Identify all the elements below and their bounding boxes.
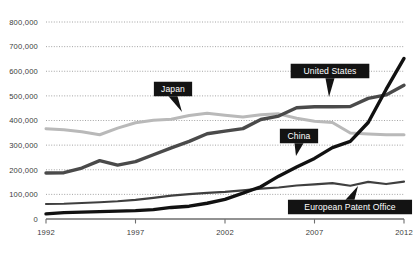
y-axis-tick-label: 200,000 <box>9 166 38 175</box>
x-axis-tick-label: 2002 <box>216 228 234 237</box>
callout-pointer <box>326 78 335 97</box>
callout-label: Japan <box>161 84 185 94</box>
series-line-united-states <box>46 85 404 173</box>
y-axis-tick-labels: 0100,000200,000300,000400,000500,000600,… <box>9 18 38 224</box>
callout-pointer <box>295 143 304 156</box>
y-axis-tick-label: 300,000 <box>9 141 38 150</box>
x-axis-tick-label: 2012 <box>395 228 413 237</box>
y-axis-tick-label: 600,000 <box>9 67 38 76</box>
y-axis-tick-label: 800,000 <box>9 18 38 27</box>
y-axis-tick-label: 700,000 <box>9 42 38 51</box>
callout-pointer <box>169 96 183 112</box>
y-axis-tick-label: 0 <box>34 215 38 224</box>
gridlines <box>46 22 404 194</box>
x-axis-tick-label: 1997 <box>127 228 145 237</box>
callout-european-patent-office[interactable]: European Patent Office <box>288 186 412 214</box>
x-axis-tick-labels: 19921997200220072012 <box>37 228 413 237</box>
patent-applications-line-chart: 0100,000200,000300,000400,000500,000600,… <box>0 0 414 258</box>
chart-canvas: 0100,000200,000300,000400,000500,000600,… <box>0 0 414 258</box>
callout-japan[interactable]: Japan <box>154 82 192 112</box>
callout-label: European Patent Office <box>304 202 396 212</box>
x-axis-tick-label: 2007 <box>306 228 324 237</box>
callout-united-states[interactable]: United States <box>291 64 370 97</box>
x-axis-tick-label: 1992 <box>37 228 55 237</box>
y-axis-tick-label: 400,000 <box>9 116 38 125</box>
y-axis-tick-label: 100,000 <box>9 190 38 199</box>
callout-label: China <box>288 131 311 141</box>
x-axis <box>46 219 404 224</box>
callout-china[interactable]: China <box>280 129 318 156</box>
y-axis-tick-label: 500,000 <box>9 92 38 101</box>
data-series-lines <box>46 58 404 213</box>
callout-label: United States <box>304 66 357 76</box>
callout-pointer <box>346 186 359 200</box>
